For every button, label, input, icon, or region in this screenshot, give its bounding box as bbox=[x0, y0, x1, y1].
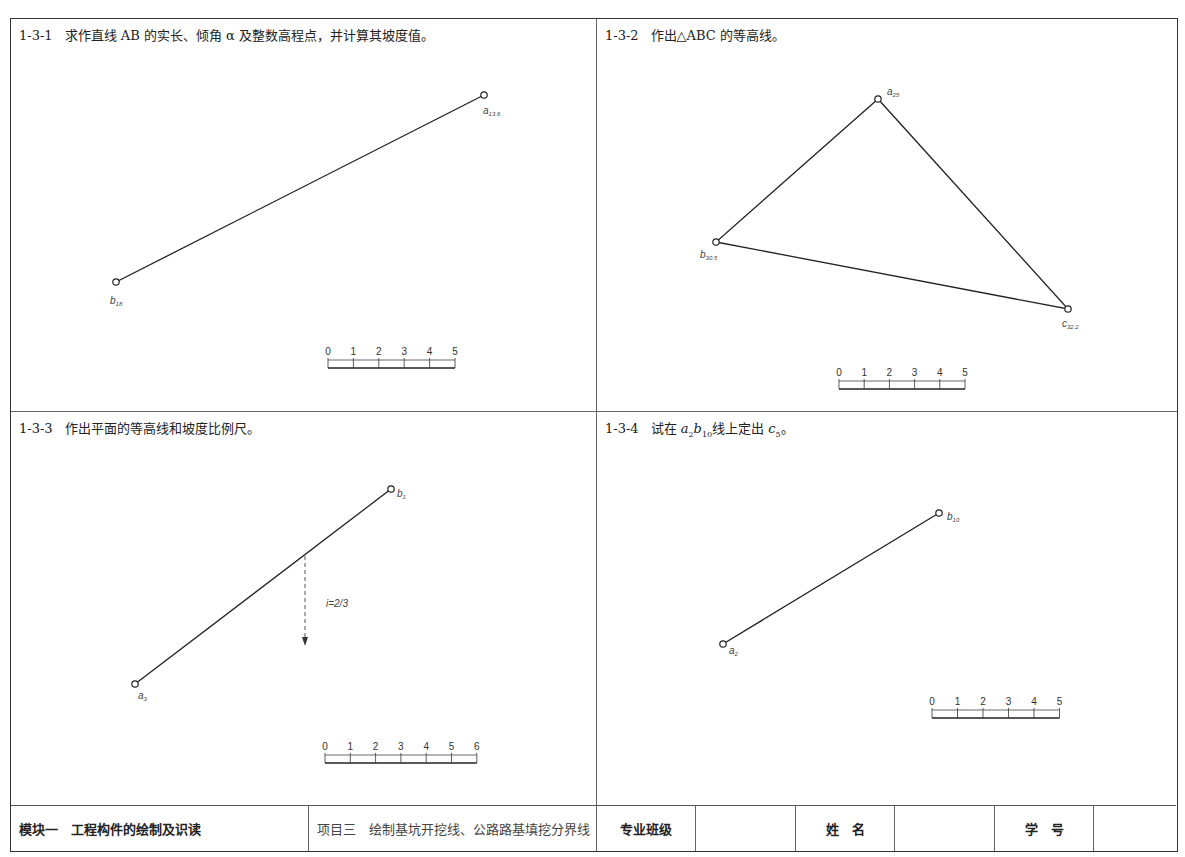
point-label-b: b10 bbox=[947, 511, 960, 523]
point-circle-icon bbox=[936, 510, 942, 516]
point-circle-icon bbox=[1065, 306, 1071, 312]
triangle-abc bbox=[716, 99, 1068, 309]
line-ab-plane bbox=[135, 489, 391, 684]
scale-tick-label: 0 bbox=[836, 367, 842, 378]
point-label-a: a2 bbox=[729, 645, 739, 657]
point-circle-icon bbox=[720, 641, 726, 647]
point-circle-icon bbox=[481, 92, 487, 98]
scale-tick-label: 5 bbox=[1057, 696, 1063, 707]
scale-tick-label: 6 bbox=[474, 741, 480, 752]
point-label-a: a25 bbox=[887, 86, 900, 98]
scale-tick-label: 2 bbox=[980, 696, 986, 707]
scale-tick-label: 1 bbox=[348, 741, 354, 752]
scale-tick-label: 3 bbox=[401, 346, 407, 357]
point-circle-icon bbox=[388, 486, 394, 492]
point-circle-icon bbox=[113, 279, 119, 285]
point-label-a: a3 bbox=[138, 690, 148, 702]
point-circle-icon bbox=[132, 681, 138, 687]
slope-label: i=2/3 bbox=[326, 598, 348, 609]
scale-tick-label: 5 bbox=[449, 741, 455, 752]
scale-tick-label: 2 bbox=[887, 367, 893, 378]
drawings-layer: a13.6 b18 a25 b30.5 c32.2 a3 b1 a2 b10 i… bbox=[0, 0, 1185, 857]
point-label-b: b30.5 bbox=[700, 249, 718, 261]
point-label-b: b18 bbox=[110, 295, 123, 307]
point-label-b: b1 bbox=[397, 488, 406, 500]
scale-tick-label: 3 bbox=[912, 367, 918, 378]
scale-tick-label: 0 bbox=[325, 346, 331, 357]
scale-tick-label: 2 bbox=[373, 741, 379, 752]
line-a2-b10 bbox=[723, 513, 939, 644]
scale-tick-label: 1 bbox=[861, 367, 867, 378]
scale-tick-label: 2 bbox=[376, 346, 382, 357]
scale-tick-label: 5 bbox=[452, 346, 458, 357]
scale-tick-label: 5 bbox=[962, 367, 968, 378]
scale-tick-label: 0 bbox=[322, 741, 328, 752]
scale-tick-label: 4 bbox=[423, 741, 429, 752]
arrow-head-icon bbox=[302, 637, 308, 646]
line-ab bbox=[116, 95, 484, 282]
scale-tick-label: 3 bbox=[398, 741, 404, 752]
point-circle-icon bbox=[713, 239, 719, 245]
scale-tick-label: 4 bbox=[1031, 696, 1037, 707]
scale-tick-label: 4 bbox=[937, 367, 943, 378]
scale-tick-label: 0 bbox=[929, 696, 935, 707]
scale-tick-label: 1 bbox=[351, 346, 357, 357]
scale-tick-label: 4 bbox=[427, 346, 433, 357]
scale-tick-label: 3 bbox=[1006, 696, 1012, 707]
point-circle-icon bbox=[875, 96, 881, 102]
scale-tick-label: 1 bbox=[955, 696, 961, 707]
point-label-c: c32.2 bbox=[1062, 318, 1079, 330]
scale-bars: 0123450123450123456012345 bbox=[322, 346, 1063, 763]
point-label-a: a13.6 bbox=[483, 105, 501, 117]
